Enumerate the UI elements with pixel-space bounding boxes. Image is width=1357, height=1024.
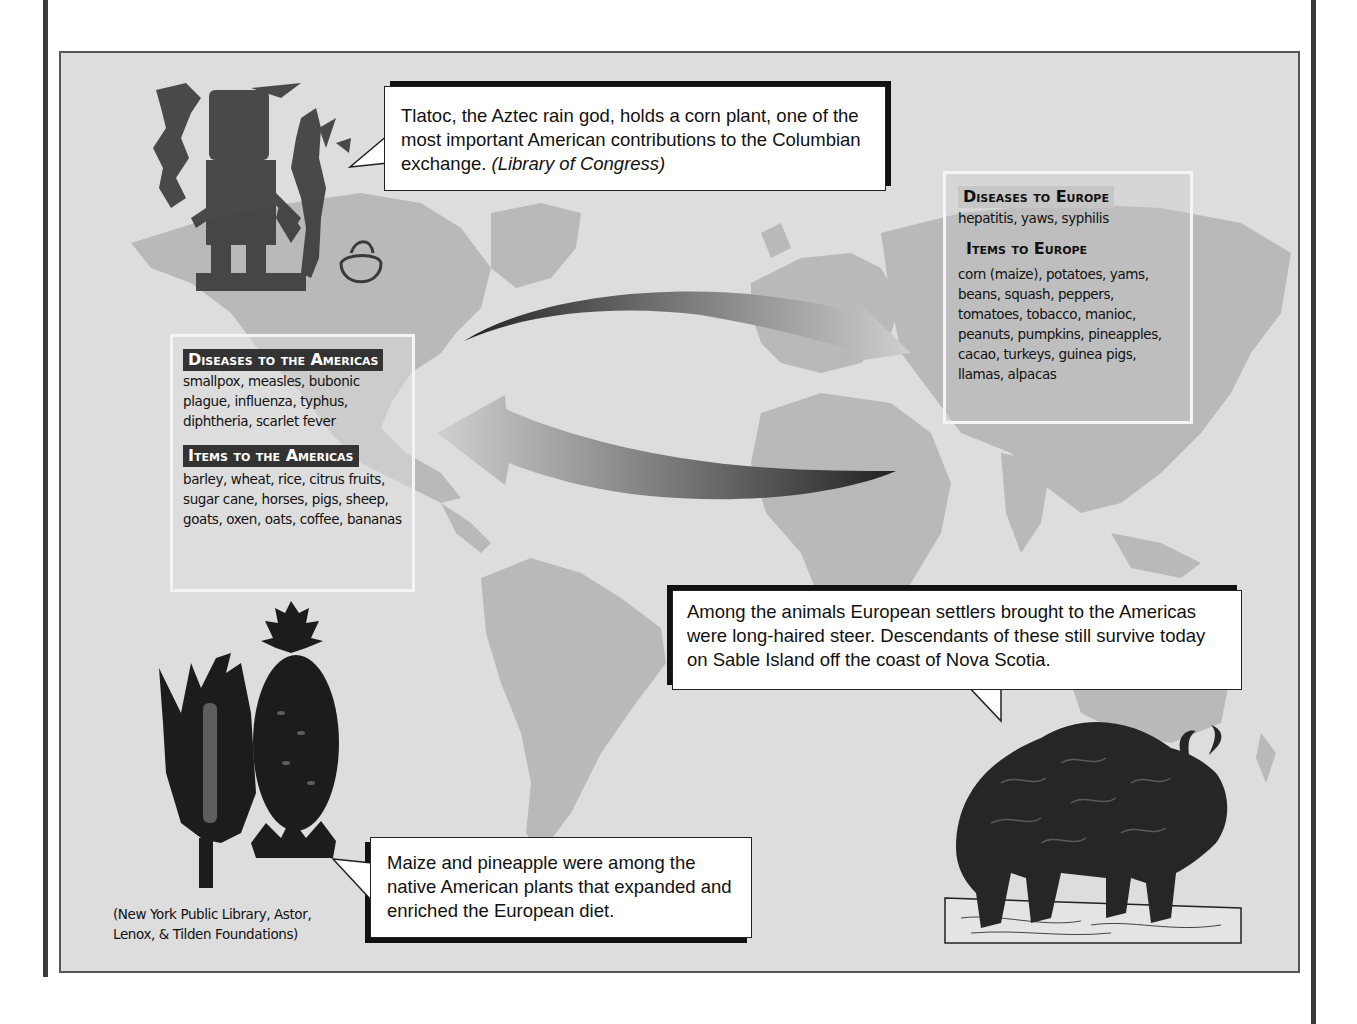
columbian-exchange-figure: Tlatoc, the Aztec rain god, holds a corn… <box>59 51 1300 973</box>
to-americas-box: Diseases to the Americas smallpox, measl… <box>170 334 415 592</box>
tlaloc-callout: Tlatoc, the Aztec rain god, holds a corn… <box>384 86 886 191</box>
steer-callout: Among the animals European settlers brou… <box>672 590 1242 690</box>
diseases-to-europe-heading: Diseases to Europe <box>958 186 1114 208</box>
left-page-rule <box>43 0 48 977</box>
steer-caption: Among the animals European settlers brou… <box>687 601 1205 670</box>
plants-image-credit: (New York Public Library, Astor, Lenox, … <box>113 904 343 944</box>
maize-callout-tail <box>329 853 374 903</box>
items-to-europe-list: corn (maize), potatoes, yams, beans, squ… <box>958 264 1180 384</box>
items-to-americas-heading: Items to the Americas <box>183 445 359 467</box>
right-page-rule <box>1311 0 1316 1024</box>
steer-illustration <box>941 693 1251 953</box>
items-to-americas-list: barley, wheat, rice, citrus fruits, suga… <box>183 469 408 529</box>
items-to-europe-heading: Items to Europe <box>958 238 1092 260</box>
tlaloc-illustration <box>151 78 386 293</box>
diseases-to-europe-list: hepatitis, yaws, syphilis <box>958 208 1178 228</box>
maize-callout: Maize and pineapple were among the nativ… <box>370 837 752 938</box>
maize-pineapple-illustration <box>141 593 341 893</box>
maize-caption: Maize and pineapple were among the nativ… <box>387 852 732 921</box>
diseases-to-americas-list: smallpox, measles, bubonic plague, influ… <box>183 371 388 431</box>
diseases-to-americas-heading: Diseases to the Americas <box>183 349 383 371</box>
tlaloc-credit: (Library of Congress) <box>492 153 666 174</box>
to-europe-box: Diseases to Europe hepatitis, yaws, syph… <box>943 171 1193 424</box>
